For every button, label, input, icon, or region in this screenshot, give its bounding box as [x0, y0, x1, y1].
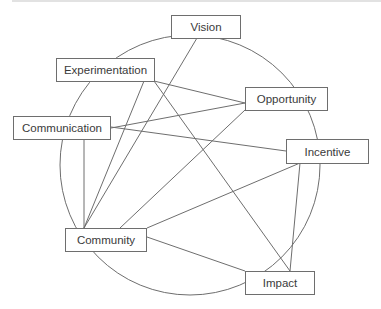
node-opportunity: Opportunity [245, 87, 328, 111]
edge-opportunity-community [120, 110, 245, 228]
edge-communication-opportunity [111, 103, 245, 128]
node-label: Vision [190, 21, 221, 33]
node-communication: Communication [13, 116, 111, 140]
node-incentive: Incentive [286, 139, 369, 164]
node-vision: Vision [171, 15, 241, 39]
node-label: Incentive [304, 146, 350, 158]
node-label: Experimentation [64, 64, 147, 76]
edge-experimentation-community [84, 81, 144, 228]
node-label: Impact [263, 277, 298, 289]
node-label: Opportunity [257, 93, 316, 105]
node-experimentation: Experimentation [56, 58, 155, 82]
edge-incentive-impact [290, 163, 300, 271]
edge-incentive-community [147, 163, 300, 228]
node-impact: Impact [245, 271, 315, 295]
node-label: Community [77, 234, 135, 246]
node-label: Communication [22, 122, 102, 134]
edge-community-impact [147, 237, 245, 271]
node-community: Community [65, 228, 147, 252]
